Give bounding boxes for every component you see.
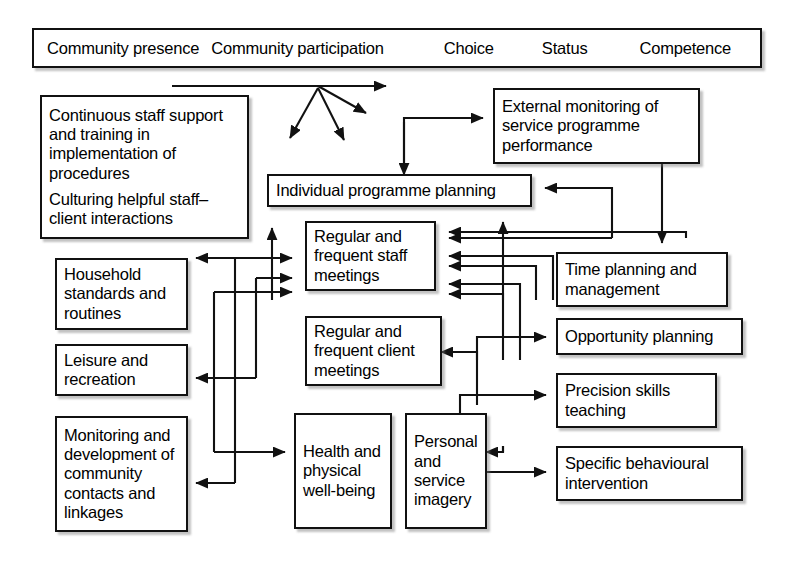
diagram-canvas: Community presence Community participati… — [0, 0, 791, 563]
values-banner: Community presence Community participati… — [32, 28, 762, 68]
banner-item-community-presence: Community presence — [47, 39, 199, 58]
connector-hub-downright — [318, 86, 366, 113]
node-specific-behavioural: Specific behavioural intervention — [556, 446, 743, 501]
node-imagery-text: Personal and service imagery — [407, 432, 485, 509]
node-client-meetings-text: Regular and frequent client meetings — [307, 322, 440, 380]
node-opportunity-planning: Opportunity planning — [556, 318, 743, 355]
node-specific-behavioural-text: Specific behavioural intervention — [558, 454, 741, 493]
node-staff-meetings-text: Regular and frequent staff meetings — [307, 227, 434, 285]
node-precision-skills-text: Precision skills teaching — [558, 381, 715, 420]
connector-to-opportunity-planning — [477, 337, 546, 360]
node-imagery: Personal and service imagery — [405, 413, 487, 529]
node-household: Household standards and routines — [55, 258, 188, 330]
node-staff-support-text-1: Continuous staff support and training in… — [42, 106, 247, 183]
node-monitoring-community-text: Monitoring and development of community … — [57, 426, 186, 522]
node-health: Health and physical well-being — [294, 413, 392, 529]
node-individual-planning: Individual programme planning — [267, 174, 532, 207]
node-staff-support: Continuous staff support and training in… — [40, 95, 249, 239]
banner-item-community-participation: Community participation — [211, 39, 383, 58]
connector-hub-downleft — [290, 88, 318, 138]
node-monitoring-community: Monitoring and development of community … — [55, 416, 188, 532]
connector-to-imagery — [486, 446, 503, 452]
node-health-text: Health and physical well-being — [296, 442, 390, 500]
node-external-monitoring: External monitoring of service programme… — [493, 88, 700, 164]
connector-hub-downcenter — [318, 88, 344, 140]
node-leisure: Leisure and recreation — [55, 344, 188, 396]
node-staff-meetings: Regular and frequent staff meetings — [305, 221, 436, 291]
node-individual-planning-text: Individual programme planning — [269, 181, 530, 200]
node-time-planning: Time planning and management — [556, 252, 728, 307]
node-household-text: Household standards and routines — [57, 265, 186, 323]
node-staff-support-text-2: Culturing helpful staff–client interacti… — [42, 190, 247, 229]
node-client-meetings: Regular and frequent client meetings — [305, 316, 442, 386]
node-opportunity-planning-text: Opportunity planning — [558, 327, 741, 346]
node-external-monitoring-text: External monitoring of service programme… — [495, 97, 698, 155]
banner-item-status: Status — [542, 39, 588, 58]
node-leisure-text: Leisure and recreation — [57, 351, 186, 390]
node-precision-skills: Precision skills teaching — [556, 373, 717, 428]
connector-return-to-individual-planning — [545, 188, 612, 238]
connector-staff-meetings-in-5 — [449, 284, 520, 360]
banner-item-choice: Choice — [444, 39, 494, 58]
banner-item-competence: Competence — [639, 39, 731, 58]
connector-to-external-monitoring — [404, 118, 483, 170]
node-time-planning-text: Time planning and management — [558, 260, 726, 299]
